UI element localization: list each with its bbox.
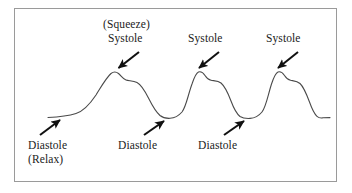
arrow-systole-1 bbox=[119, 52, 140, 68]
label-squeeze: (Squeeze) bbox=[103, 18, 150, 31]
arrow-diastole-1 bbox=[40, 120, 60, 135]
label-relax: (Relax) bbox=[28, 153, 63, 166]
label-systole-3: Systole bbox=[266, 32, 301, 45]
arrow-systole-3 bbox=[278, 52, 298, 68]
label-systole-2: Systole bbox=[188, 32, 223, 45]
arrow-systole-2 bbox=[199, 52, 219, 68]
label-diastole-3: Diastole bbox=[198, 139, 237, 152]
label-systole-1: Systole bbox=[108, 32, 143, 45]
cardiac-cycle-figure: (Squeeze) Systole Systole Systole Diasto… bbox=[0, 0, 352, 193]
arrow-diastole-2 bbox=[144, 121, 164, 135]
arrow-diastole-3 bbox=[224, 121, 244, 135]
pressure-waveform-trace bbox=[48, 72, 330, 119]
label-diastole-2: Diastole bbox=[118, 139, 157, 152]
label-diastole-1: Diastole bbox=[28, 139, 67, 152]
